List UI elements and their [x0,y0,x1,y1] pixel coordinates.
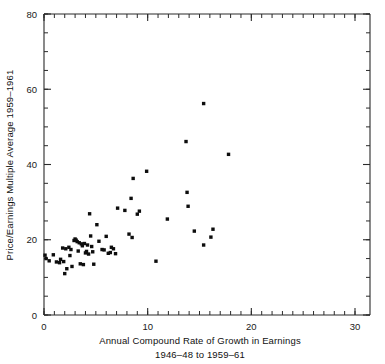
data-point [65,267,68,270]
x-tick-label: 20 [246,321,257,332]
data-point [109,251,112,254]
scatter-data-points [43,102,230,275]
data-point [123,209,126,212]
data-point [83,242,86,245]
data-point [136,212,139,215]
data-point [154,259,157,262]
data-point [116,206,119,209]
data-point [86,243,89,246]
data-point [112,247,115,250]
data-point [70,265,73,268]
data-point [102,248,105,251]
data-point [90,245,93,248]
data-point [79,262,82,265]
y-tick-label: 80 [26,9,37,20]
data-point [43,253,46,256]
data-point [95,223,98,226]
data-point [62,260,65,263]
y-tick-label: 60 [26,84,37,95]
data-point [47,259,50,262]
data-point [105,235,108,238]
chart-svg: 0102030 020406080 Annual Compound Rate o… [0,0,385,364]
y-axis-major-ticks [44,14,370,315]
data-point [97,240,100,243]
data-point [184,140,187,143]
x-axis-tick-labels: 0102030 [41,321,360,332]
x-axis-minor-ticks [44,14,355,315]
data-point [59,258,62,261]
data-point [138,209,141,212]
x-axis-label-line2: 1946–48 to 1959–61 [155,349,245,360]
data-point [64,247,67,250]
y-axis-label: Price/Earnings Multiple Average 1959–196… [4,70,15,261]
data-point [227,153,230,156]
x-tick-label: 0 [41,321,46,332]
data-point [88,212,91,215]
data-point [55,260,58,263]
data-point [77,249,80,252]
data-point [68,254,71,257]
data-point [211,228,214,231]
data-point [202,243,205,246]
data-point [58,261,61,264]
x-axis-label-line1: Annual Compound Rate of Growth in Earnin… [99,335,301,346]
data-point [129,197,132,200]
data-point [193,229,196,232]
data-point [209,235,212,238]
axis-frame [44,14,370,315]
data-point [202,102,205,105]
data-point [185,191,188,194]
data-point [130,236,133,239]
x-tick-label: 10 [142,321,153,332]
data-point [91,250,94,253]
data-point [186,205,189,208]
y-tick-label: 40 [26,159,37,170]
y-axis-tick-labels: 020406080 [26,9,37,321]
data-point [61,246,64,249]
data-point [69,248,72,251]
x-tick-label: 30 [350,321,361,332]
data-point [44,257,47,260]
scatter-plot-figure: 0102030 020406080 Annual Compound Rate o… [0,0,385,364]
data-point [52,253,55,256]
data-point [114,252,117,255]
y-tick-label: 0 [32,310,37,321]
data-point [87,252,90,255]
y-tick-label: 20 [26,234,37,245]
y-axis-minor-ticks [44,14,370,315]
plot-frame [44,14,370,315]
data-point [127,232,130,235]
data-point [145,170,148,173]
data-point [82,263,85,266]
data-point [89,234,92,237]
data-point [63,272,66,275]
data-point [166,217,169,220]
x-axis-major-ticks [44,14,355,315]
data-point [92,263,95,266]
data-point [131,177,134,180]
